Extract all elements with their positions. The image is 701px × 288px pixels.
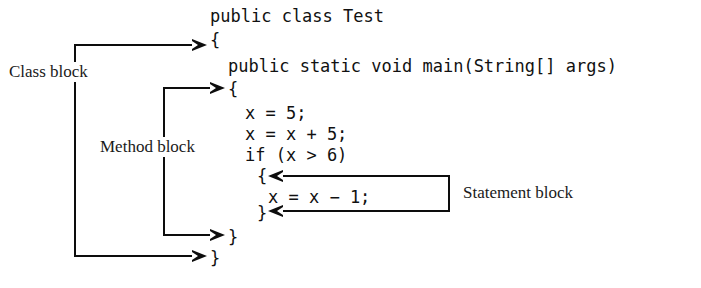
code-line-if-open-brace: { (257, 166, 267, 186)
class-block-bracket-top-arm (74, 44, 194, 46)
code-line-class-declaration: public class Test (210, 6, 384, 26)
code-line-if-condition: if (x > 6) (245, 145, 347, 165)
statement-block-bracket-top-arm (283, 175, 450, 177)
code-line-class-close-brace: } (210, 248, 220, 268)
method-block-bracket-bottom-arm (163, 234, 212, 236)
statement-block-bottom-arrowhead (268, 205, 283, 217)
code-line-method-close-brace: } (228, 227, 238, 247)
statement-block-bracket-spine (448, 175, 450, 212)
method-block-bracket-spine (163, 87, 165, 236)
statement-block-top-arrowhead (268, 170, 283, 182)
method-block-top-arrowhead (210, 82, 225, 94)
code-block-diagram: public class Test { public static void m… (0, 0, 701, 288)
code-line-if-close-brace: } (257, 203, 267, 223)
method-block-label: Method block (97, 137, 198, 157)
statement-block-label: Statement block (460, 183, 576, 203)
class-block-bracket-bottom-arm (74, 255, 194, 257)
code-line-assign-five: x = 5; (245, 103, 306, 123)
class-block-label: Class block (6, 62, 91, 82)
code-line-subtract-one: x = x − 1; (268, 187, 370, 207)
code-line-method-declaration: public static void main(String[] args) (228, 56, 617, 76)
code-line-add-five: x = x + 5; (245, 124, 347, 144)
code-line-method-open-brace: { (228, 79, 238, 99)
class-block-top-arrowhead (192, 39, 207, 51)
method-block-bracket-top-arm (163, 87, 212, 89)
class-block-bottom-arrowhead (192, 250, 207, 262)
method-block-bottom-arrowhead (210, 229, 225, 241)
statement-block-bracket-bottom-arm (283, 210, 450, 212)
code-line-class-open-brace: { (210, 30, 220, 50)
